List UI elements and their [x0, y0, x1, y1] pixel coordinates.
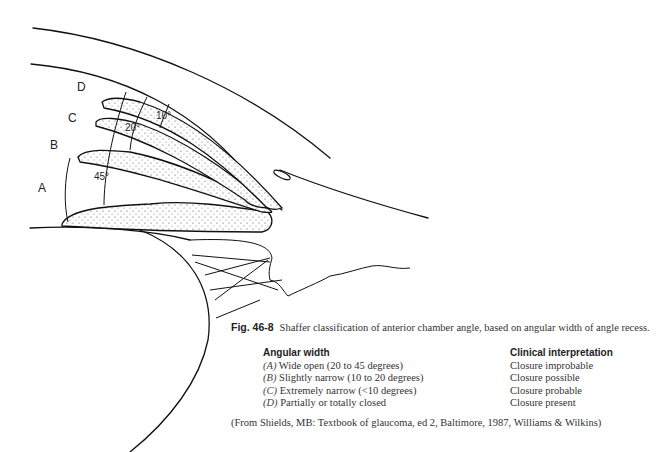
figure-caption: Fig. 46-8Shaffer classification of anter…	[231, 321, 651, 334]
interpretation-a: Closure improbable	[510, 360, 613, 373]
angle-label-45: 45°	[94, 171, 109, 182]
source-citation: (From Shields, MB: Textbook of glaucoma,…	[231, 417, 601, 428]
sclera-line	[280, 170, 428, 218]
clinical-interpretation-header: Clinical interpretation	[510, 347, 613, 360]
label-c: C	[68, 111, 77, 125]
interpretation-d: Closure present	[510, 397, 613, 410]
interpretation-c: Closure probable	[510, 385, 613, 398]
angular-width-column: Angular width (A) Wide open (20 to 45 de…	[263, 347, 423, 410]
trabecular-meshwork	[192, 255, 282, 318]
caption-text: Shaffer classification of anterior chamb…	[280, 322, 650, 333]
angle-label-10: 10°	[156, 110, 171, 121]
figure-number: Fig. 46-8	[231, 321, 274, 333]
lens-outline	[130, 230, 209, 452]
angle-label-20: 20°	[125, 122, 140, 133]
table-row-d: (D) Partially or totally closed	[263, 397, 423, 410]
ciliary-body-outline	[190, 240, 410, 296]
clinical-interpretation-column: Clinical interpretation Closure improbab…	[510, 347, 613, 410]
vertical-bracket-a	[65, 158, 70, 222]
interpretation-b: Closure possible	[510, 372, 613, 385]
table-row-c: (C) Extremely narrow (<10 degrees)	[263, 385, 423, 398]
angular-width-header: Angular width	[263, 347, 423, 360]
label-b: B	[50, 138, 58, 152]
table-row-b: (B) Slightly narrow (10 to 20 degrees)	[263, 372, 423, 385]
label-a: A	[38, 181, 46, 195]
table-row-a: (A) Wide open (20 to 45 degrees)	[263, 360, 423, 373]
iris-position-a	[62, 203, 272, 232]
label-d: D	[77, 80, 86, 94]
